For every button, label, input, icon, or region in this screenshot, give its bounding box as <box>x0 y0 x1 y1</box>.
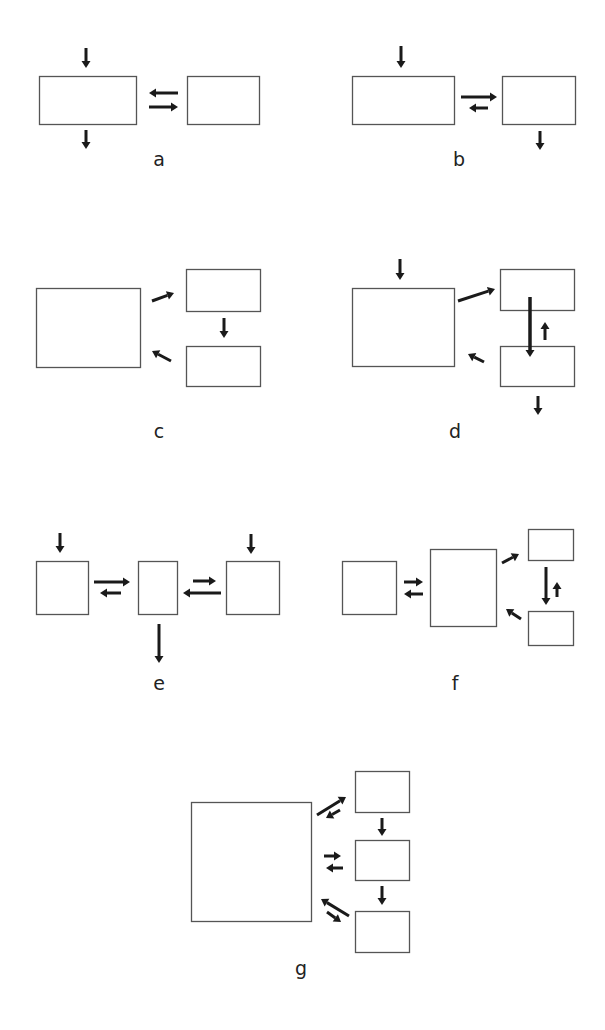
arrow-input-icon <box>396 259 405 280</box>
box-compartment-2 <box>501 270 575 311</box>
panel-label: b <box>453 148 465 170</box>
panels: abcdefg <box>37 46 576 979</box>
panel-g: g <box>192 772 410 980</box>
box-compartment-3 <box>187 347 261 387</box>
arrow-flux-3-to-4-icon <box>542 567 551 605</box>
arrow-flux-3-to-1-icon <box>326 864 343 873</box>
arrow-output-icon <box>155 624 164 663</box>
arrow-input-icon <box>397 46 406 68</box>
box-compartment-1 <box>192 803 312 922</box>
panel-label: e <box>153 672 165 694</box>
panel-label: c <box>154 420 164 442</box>
arrow-flux-2-to-1-icon <box>326 810 340 818</box>
box-compartment-1 <box>353 289 455 367</box>
arrow-flux-2-to-3-icon <box>220 318 229 338</box>
arrow-flux-3-to-2-icon <box>183 589 221 598</box>
panel-label: a <box>153 148 165 170</box>
arrow-flux-4-to-1-icon <box>321 899 349 916</box>
arrow-flux-1-to-2-icon <box>94 578 130 587</box>
panel-c: c <box>37 270 261 443</box>
panel-f: f <box>343 530 574 695</box>
arrow-flux-1-to-2-icon <box>149 103 178 112</box>
box-compartment-2 <box>503 77 576 125</box>
arrow-flux-4-to-2-icon <box>506 609 521 619</box>
box-compartment-2 <box>139 562 178 615</box>
arrow-flux-3-to-1-icon <box>152 350 171 361</box>
arrow-output-icon <box>536 131 545 150</box>
panel-label: g <box>295 957 307 979</box>
box-compartment-1 <box>343 562 397 615</box>
arrow-input-icon <box>82 48 91 68</box>
arrow-output-icon <box>82 130 91 149</box>
panel-label: d <box>449 420 461 442</box>
arrow-flux-1-to-2-icon <box>152 291 174 301</box>
arrow-output-icon <box>534 396 543 415</box>
arrow-flux-4-to-3-icon <box>553 582 562 597</box>
box-compartment-3 <box>356 841 410 881</box>
panel-d: d <box>353 259 575 442</box>
arrow-flux-1-to-2-icon <box>461 93 497 102</box>
box-compartment-4 <box>356 912 410 953</box>
panel-b: b <box>353 46 576 170</box>
box-compartment-2 <box>356 772 410 813</box>
box-compartment-2 <box>188 77 260 125</box>
box-compartment-2 <box>187 270 261 312</box>
arrow-flux-2-to-3-icon <box>378 818 387 836</box>
arrow-flux-1-to-2-icon <box>317 797 346 815</box>
box-compartment-3 <box>501 347 575 387</box>
box-compartment-1 <box>40 77 137 125</box>
arrow-flux-1-to-2-icon <box>404 578 423 587</box>
panel-e: e <box>37 533 280 694</box>
box-compartment-3 <box>227 562 280 615</box>
arrow-flux-2-to-3-icon <box>193 577 216 586</box>
panel-a: a <box>40 48 260 170</box>
arrow-flux-1-to-2-icon <box>458 287 495 301</box>
arrow-input-3-icon <box>247 534 256 554</box>
arrow-flux-2-to-1-icon <box>469 104 488 113</box>
arrow-flux-3-to-4-icon <box>378 886 387 905</box>
arrow-flux-2-to-3-icon <box>502 553 519 563</box>
arrow-flux-2-to-1-icon <box>100 589 121 598</box>
box-compartment-1 <box>37 289 141 368</box>
arrow-flux-3-to-2-icon <box>541 322 550 340</box>
box-compartment-4 <box>529 612 574 646</box>
box-compartment-1 <box>353 77 455 125</box>
arrow-flux-1-to-4-icon <box>327 912 341 922</box>
box-compartment-1 <box>37 562 89 615</box>
panel-label: f <box>452 672 460 694</box>
arrow-flux-3-to-1-icon <box>468 353 484 362</box>
arrow-flux-2-to-1-icon <box>149 89 178 98</box>
compartment-model-figure: abcdefg <box>0 0 605 1030</box>
arrow-flux-1-to-3-icon <box>324 852 341 861</box>
box-compartment-2 <box>431 550 497 627</box>
box-compartment-3 <box>529 530 574 561</box>
arrow-flux-2-to-1-icon <box>404 590 423 599</box>
arrow-input-1-icon <box>56 533 65 553</box>
